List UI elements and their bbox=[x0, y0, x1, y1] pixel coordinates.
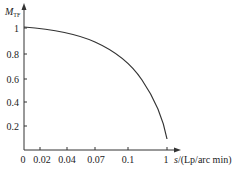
x-tick-label: 0 bbox=[21, 154, 26, 165]
y-tick-label: 1 bbox=[14, 23, 19, 34]
y-tick-label: 0.4 bbox=[7, 97, 20, 108]
x-tick-label: 0.1 bbox=[122, 154, 135, 165]
y-axis-title-sub: TF bbox=[13, 12, 21, 18]
y-axis-title: MTF bbox=[4, 6, 21, 18]
mtf-chart: 0.2 0.4 0.6 0.8 1 0 0.02 0.04 0.07 0.1 1… bbox=[0, 0, 234, 174]
x-tick-label: 0.04 bbox=[58, 154, 76, 165]
x-tick-label: 0.07 bbox=[87, 154, 105, 165]
y-tick-label: 0.6 bbox=[7, 74, 20, 85]
x-axis-title-unit: /(Lp/arc min) bbox=[178, 154, 232, 166]
mtf-curve bbox=[24, 27, 167, 139]
x-axis-arrow-icon bbox=[174, 148, 181, 153]
y-tick-label: 0.8 bbox=[7, 49, 20, 60]
y-tick-label: 0.2 bbox=[7, 121, 20, 132]
x-tick-label: 1 bbox=[164, 154, 169, 165]
x-tick-label: 0.02 bbox=[33, 154, 51, 165]
x-axis-title: s/(Lp/arc min) bbox=[174, 154, 232, 166]
y-axis-arrow-icon bbox=[22, 3, 27, 10]
